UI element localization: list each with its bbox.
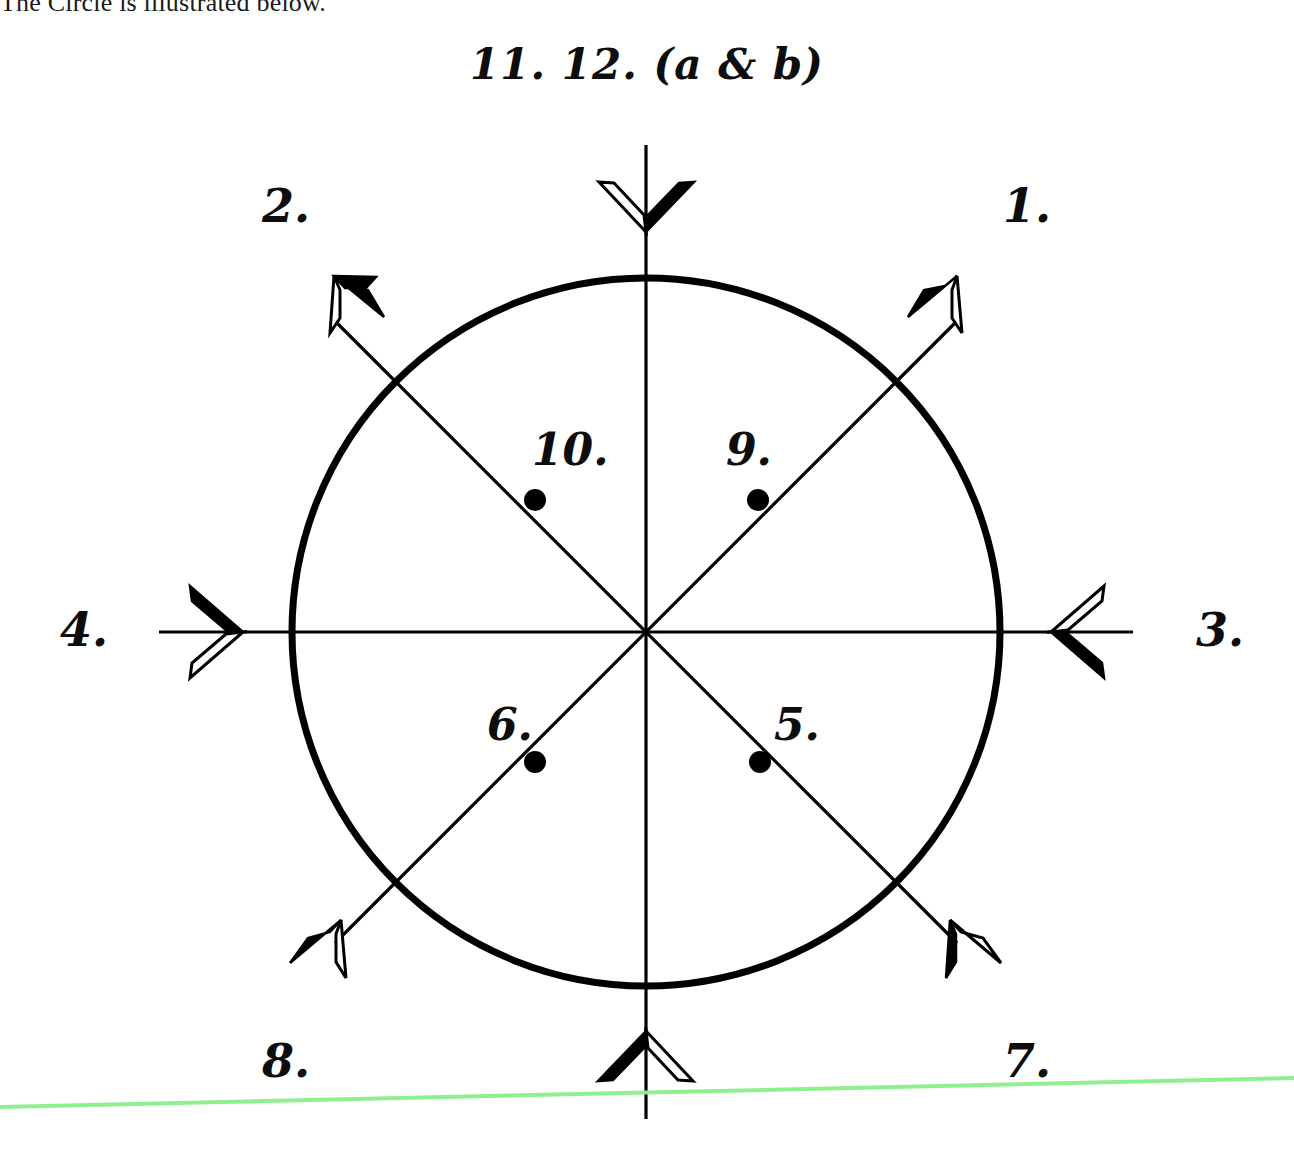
- label-6: 6.: [487, 703, 533, 747]
- label-4: 4.: [60, 607, 108, 653]
- dot-10: [524, 489, 546, 511]
- label-5: 5.: [774, 703, 820, 747]
- label-3: 3.: [1196, 607, 1244, 653]
- arrow-lower-right-solid-barb: [946, 920, 956, 978]
- axis-group: [159, 145, 1133, 1119]
- arrow-right-solid-barb: [1051, 632, 1104, 678]
- label-10: 10.: [532, 428, 609, 472]
- arrow-lower-right: [946, 920, 1001, 978]
- arrow-bottom-solid-barb: [598, 1031, 646, 1081]
- dot-9: [747, 489, 769, 511]
- arrow-right-outline-barb: [1051, 586, 1104, 632]
- arrow-lower-left: [290, 920, 346, 978]
- label-1: 1.: [1003, 183, 1051, 229]
- label-8: 8.: [262, 1038, 310, 1084]
- dot-6: [524, 751, 546, 773]
- label-9: 9.: [726, 428, 772, 472]
- dot-5: [749, 751, 771, 773]
- label-7: 7.: [1003, 1038, 1051, 1084]
- arrow-upper-right-solid-barb: [908, 276, 957, 317]
- arrow-lower-left-outline-barb: [336, 920, 346, 978]
- circle-diagram: [0, 0, 1294, 1156]
- arrow-top-outline-barb: [599, 182, 646, 232]
- figure-page: The Circle is illustrated below. 11. 12.…: [0, 0, 1294, 1156]
- arrow-top-solid-barb: [646, 182, 694, 232]
- arrow-lower-left-solid-barb: [290, 920, 341, 963]
- label-2: 2.: [262, 183, 310, 229]
- arrow-left-outline-barb: [190, 632, 243, 678]
- arrow-left-solid-barb: [190, 586, 243, 632]
- arrow-bottom-outline-barb: [646, 1031, 693, 1081]
